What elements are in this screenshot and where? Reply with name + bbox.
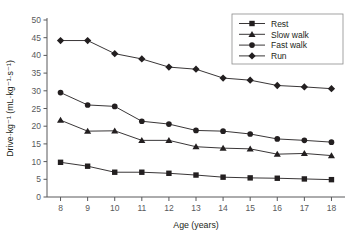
marker-square bbox=[58, 160, 63, 165]
chart-container: 0510152025303540455089101112131415161718… bbox=[0, 0, 352, 240]
series-line bbox=[61, 120, 332, 155]
x-tick-label: 10 bbox=[110, 203, 120, 213]
marker-circle bbox=[274, 136, 280, 142]
marker-diamond bbox=[165, 63, 172, 70]
marker-circle bbox=[329, 139, 335, 145]
x-tick-label: 15 bbox=[245, 203, 255, 213]
y-tick-label: 0 bbox=[36, 192, 41, 202]
y-axis-title-group: Drive·kg⁻¹ (mL·kg⁻¹·s⁻¹) bbox=[5, 60, 15, 157]
x-tick-label: 13 bbox=[191, 203, 201, 213]
series-line bbox=[61, 93, 332, 143]
marker-circle bbox=[85, 102, 91, 108]
y-axis-ticks: 05101520253035404550 bbox=[32, 15, 47, 202]
x-tick-label: 16 bbox=[273, 203, 283, 213]
y-tick-label: 45 bbox=[32, 33, 42, 43]
marker-diamond bbox=[57, 37, 64, 44]
legend-label: Run bbox=[271, 51, 287, 61]
marker-circle bbox=[247, 131, 253, 137]
marker-square bbox=[193, 172, 198, 177]
marker-circle bbox=[249, 42, 255, 48]
legend: RestSlow walkFast walkRun bbox=[232, 14, 343, 64]
marker-diamond bbox=[274, 82, 281, 89]
y-tick-label: 25 bbox=[32, 104, 42, 114]
marker-diamond bbox=[111, 50, 118, 57]
marker-circle bbox=[58, 90, 64, 96]
marker-circle bbox=[220, 128, 226, 134]
marker-square bbox=[220, 174, 225, 179]
marker-diamond bbox=[138, 55, 145, 62]
marker-square bbox=[275, 176, 280, 181]
marker-square bbox=[112, 170, 117, 175]
marker-diamond bbox=[192, 66, 199, 73]
marker-square bbox=[139, 170, 144, 175]
y-tick-label: 10 bbox=[32, 157, 42, 167]
marker-triangle bbox=[57, 117, 64, 123]
marker-square bbox=[166, 171, 171, 176]
marker-circle bbox=[302, 138, 308, 144]
marker-square bbox=[249, 21, 254, 26]
x-axis-ticks: 89101112131415161718 bbox=[58, 197, 336, 213]
line-chart: 0510152025303540455089101112131415161718… bbox=[0, 0, 352, 240]
marker-diamond bbox=[301, 83, 308, 90]
y-tick-label: 20 bbox=[32, 121, 42, 131]
marker-circle bbox=[139, 118, 145, 124]
legend-label: Slow walk bbox=[271, 30, 310, 40]
marker-circle bbox=[193, 128, 199, 134]
x-tick-label: 9 bbox=[85, 203, 90, 213]
legend-label: Rest bbox=[271, 19, 289, 29]
x-tick-label: 11 bbox=[137, 203, 146, 213]
marker-circle bbox=[166, 121, 172, 127]
y-tick-label: 50 bbox=[32, 15, 42, 25]
marker-diamond bbox=[247, 77, 254, 84]
y-axis-title: Drive·kg⁻¹ (mL·kg⁻¹·s⁻¹) bbox=[5, 60, 15, 157]
series-fast-walk bbox=[58, 90, 335, 145]
marker-square bbox=[85, 164, 90, 169]
y-tick-label: 40 bbox=[32, 50, 42, 60]
legend-label: Fast walk bbox=[271, 40, 308, 50]
series-rest bbox=[58, 160, 334, 183]
marker-diamond bbox=[84, 37, 91, 44]
series-slow-walk bbox=[57, 117, 335, 158]
y-tick-label: 15 bbox=[32, 139, 42, 149]
y-tick-label: 5 bbox=[36, 174, 41, 184]
x-tick-label: 17 bbox=[300, 203, 310, 213]
y-tick-label: 30 bbox=[32, 86, 42, 96]
x-tick-label: 12 bbox=[164, 203, 174, 213]
marker-diamond bbox=[219, 74, 226, 81]
marker-square bbox=[302, 176, 307, 181]
x-tick-label: 14 bbox=[218, 203, 228, 213]
y-tick-label: 35 bbox=[32, 68, 42, 78]
x-tick-label: 8 bbox=[58, 203, 63, 213]
marker-diamond bbox=[328, 85, 335, 92]
marker-circle bbox=[112, 104, 118, 110]
marker-square bbox=[329, 177, 334, 182]
marker-square bbox=[247, 175, 252, 180]
x-tick-label: 18 bbox=[327, 203, 337, 213]
x-axis-title: Age (years) bbox=[173, 220, 219, 230]
